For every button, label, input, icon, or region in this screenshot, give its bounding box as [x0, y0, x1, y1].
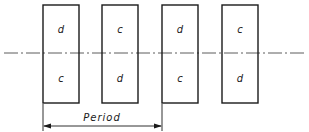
- period-diagram: d c c d d c c d Period: [0, 0, 309, 132]
- block-3-top-label: d: [177, 24, 184, 35]
- block-1-top-label: d: [58, 24, 65, 35]
- arrow-left-icon: [43, 124, 51, 129]
- block-2-bottom-label: d: [117, 73, 124, 84]
- arrow-right-icon: [154, 124, 162, 129]
- period-label: Period: [83, 112, 121, 123]
- block-4: c d: [222, 5, 258, 103]
- block-4-bottom-label: d: [237, 73, 244, 84]
- block-2-top-label: c: [117, 24, 123, 35]
- block-3-bottom-label: c: [177, 73, 183, 84]
- block-1: d c: [43, 5, 79, 103]
- block-3: d c: [162, 5, 198, 103]
- period-dimension: Period: [43, 104, 162, 131]
- block-4-top-label: c: [237, 24, 243, 35]
- block-2: c d: [102, 5, 138, 103]
- block-1-bottom-label: c: [58, 73, 64, 84]
